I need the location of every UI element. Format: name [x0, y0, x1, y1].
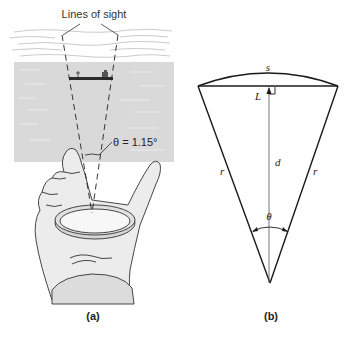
clouds: [10, 29, 172, 57]
panel-b-label: (b): [264, 310, 278, 322]
hand-illustration: [35, 148, 160, 304]
lines-of-sight-label: Lines of sight: [62, 8, 127, 20]
label-r-right: r: [313, 165, 318, 177]
panel-b: [198, 73, 338, 283]
figure: Lines of sight θ = 1.15° (a) s L d r r: [0, 0, 354, 344]
side-r-left: [198, 86, 270, 283]
label-theta: θ: [266, 210, 272, 222]
label-d: d: [275, 156, 281, 168]
label-r-left: r: [220, 165, 225, 177]
arc-s: [198, 73, 338, 86]
panel-a-label: (a): [86, 310, 100, 322]
height-arrowhead: [267, 87, 272, 94]
label-L: L: [254, 90, 261, 102]
angle-value-label: θ = 1.15°: [113, 136, 157, 148]
label-leader-lines: [63, 24, 118, 35]
label-s: s: [266, 61, 270, 73]
panel-a: Lines of sight θ = 1.15° (a): [10, 8, 174, 322]
theta-arc: [253, 227, 287, 231]
side-r-right: [270, 86, 338, 283]
